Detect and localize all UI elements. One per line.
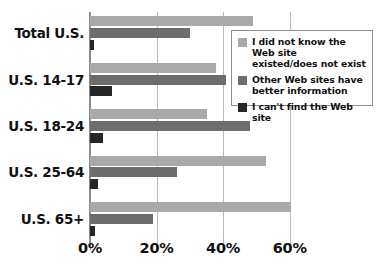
category-label-u-s-25-64: U.S. 25-64 xyxy=(0,164,84,180)
bar-4-series-0 xyxy=(90,202,291,212)
bar-3-series-1 xyxy=(90,167,177,177)
bar-chart: 0%20%40%60% Total U.S.U.S. 14-17U.S. 18-… xyxy=(0,0,386,278)
legend-item-1: Other Web sites have better information xyxy=(238,75,367,97)
legend-label-line2: better information xyxy=(252,85,348,96)
bar-3-series-2 xyxy=(90,179,98,189)
category-label-u-s-14-17: U.S. 14-17 xyxy=(0,72,84,88)
bar-4-series-1 xyxy=(90,214,153,224)
bar-0-series-2 xyxy=(90,40,94,50)
x-tick-label-40%: 40% xyxy=(206,240,240,256)
bar-2-series-2 xyxy=(90,133,103,143)
bar-2-series-1 xyxy=(90,121,250,131)
legend-label-line2: existed/does not exist xyxy=(252,58,366,69)
chart-legend: I did not know the Web site existed/does… xyxy=(231,30,373,106)
bar-0-series-0 xyxy=(90,16,253,26)
bar-2-series-0 xyxy=(90,109,207,119)
x-tick-label-0%: 0% xyxy=(78,240,102,256)
legend-swatch-icon-series-2 xyxy=(238,103,247,112)
legend-label-series-1: Other Web sites have better information xyxy=(252,75,363,97)
legend-label-series-2: I can't find the Web site xyxy=(252,102,367,124)
legend-label-series-0: I did not know the Web site existed/does… xyxy=(252,37,367,70)
bar-0-series-1 xyxy=(90,28,190,38)
bar-3-series-0 xyxy=(90,156,266,166)
legend-label-line1: Other Web sites have xyxy=(252,74,363,85)
category-label-total-u-s: Total U.S. xyxy=(0,25,84,41)
bar-1-series-1 xyxy=(90,75,226,85)
bar-1-series-2 xyxy=(90,86,112,96)
bar-4-series-2 xyxy=(90,226,95,236)
category-label-u-s-65: U.S. 65+ xyxy=(0,211,84,227)
bar-1-series-0 xyxy=(90,63,216,73)
legend-label-line1: I did not know the Web site xyxy=(252,36,346,58)
legend-item-0: I did not know the Web site existed/does… xyxy=(238,37,367,70)
x-tick-label-20%: 20% xyxy=(140,240,174,256)
legend-swatch-icon-series-0 xyxy=(238,38,247,47)
x-tick-label-60%: 60% xyxy=(273,240,307,256)
legend-item-2: I can't find the Web site xyxy=(238,102,367,124)
legend-swatch-icon-series-1 xyxy=(238,76,247,85)
legend-label-line1: I can't find the Web site xyxy=(252,101,353,123)
category-label-u-s-18-24: U.S. 18-24 xyxy=(0,118,84,134)
